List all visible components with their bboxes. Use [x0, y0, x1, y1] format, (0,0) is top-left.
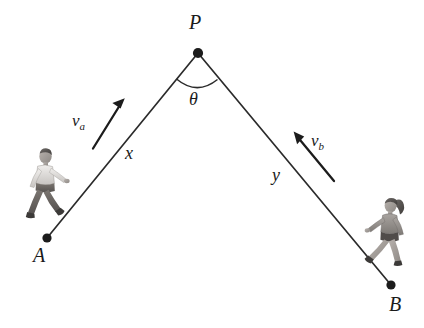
label-vertex-p: P	[189, 12, 201, 32]
segment-x-line	[47, 53, 198, 238]
label-point-b: B	[389, 294, 401, 314]
angle-arc-icon	[177, 79, 218, 88]
velocity-arrow-up-right-icon	[93, 98, 125, 148]
person-walking-left-icon	[365, 198, 405, 266]
person-walking-right-icon	[26, 148, 70, 218]
label-point-a: A	[33, 245, 45, 265]
label-velocity-b-subscript: b	[319, 140, 325, 152]
label-angle-theta: θ	[189, 90, 198, 108]
endpoint-dot-a	[42, 233, 51, 242]
segment-y-line	[198, 53, 391, 285]
physics-diagram-two-walkers: P A B θ x y va vb	[0, 0, 424, 328]
label-velocity-a-subscript: a	[80, 120, 86, 132]
endpoint-dot-b	[386, 280, 395, 289]
label-velocity-b-symbol: v	[311, 131, 319, 150]
label-segment-x: x	[125, 144, 133, 162]
diagram-canvas	[0, 0, 424, 328]
label-velocity-b: vb	[311, 132, 324, 152]
vertex-dot-p	[193, 48, 203, 58]
label-segment-y: y	[272, 166, 280, 184]
label-velocity-a: va	[72, 112, 85, 132]
label-velocity-a-symbol: v	[72, 111, 80, 130]
